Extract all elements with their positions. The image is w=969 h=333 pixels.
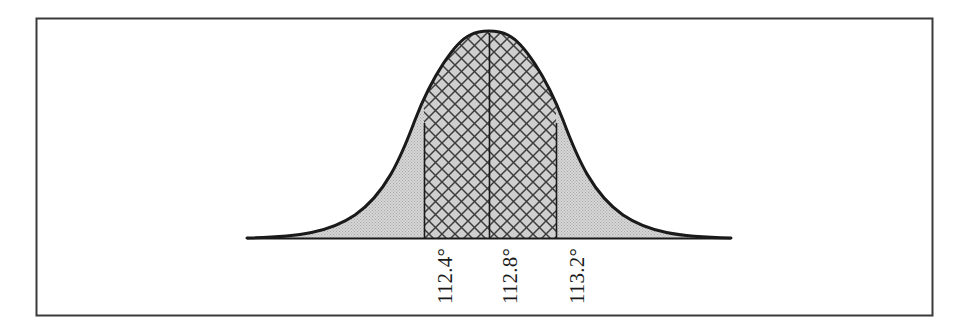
- tick-label-lower: 112.4°: [433, 248, 458, 304]
- tick-label-mean: 112.8°: [498, 248, 523, 304]
- distribution-chart: [0, 0, 969, 333]
- tick-label-upper: 113.2°: [565, 248, 590, 304]
- figure-root: 112.4° 112.8° 113.2°: [0, 0, 969, 333]
